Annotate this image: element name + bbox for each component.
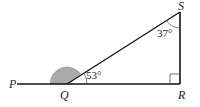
right-angle-marker xyxy=(170,74,180,84)
label-R: R xyxy=(177,88,186,102)
triangle-diagram: P Q R S 53° 37° xyxy=(0,0,200,107)
label-Q: Q xyxy=(60,88,69,102)
label-P: P xyxy=(8,77,17,91)
label-S: S xyxy=(178,0,184,13)
angle-label-53: 53° xyxy=(86,69,101,81)
angle-label-37: 37° xyxy=(157,27,172,39)
shaded-angle-PQS xyxy=(50,67,81,84)
